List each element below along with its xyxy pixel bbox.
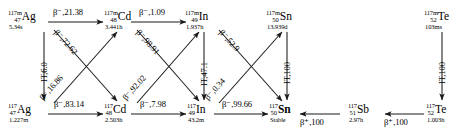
nuclide-ag117: 117 47 Ag 1.227m	[8, 99, 31, 124]
nuclide-label: 117m 49 In	[185, 10, 208, 24]
half-life: 43.2m	[187, 116, 206, 124]
nuclide-label: 117 52 Te	[426, 103, 446, 117]
half-life: 3.441h	[104, 23, 131, 31]
transition-label-in117-sn117: β⁻,99.66	[222, 100, 252, 109]
nuclide-numbers: 117 49	[187, 103, 196, 117]
nuclide-label: 117m 48 Cd	[104, 10, 131, 24]
transition-label-cd117-in117: β⁻,7.98	[140, 100, 166, 109]
nuclide-numbers: 117 47	[8, 103, 17, 117]
nuclide-sn117: 117 50 Sn Stable	[269, 99, 291, 124]
transition-label-sn117m-sn117: IT,100	[283, 62, 292, 84]
nuclide-numbers: 117m 48	[104, 10, 118, 24]
half-life: 13.939d	[266, 23, 292, 31]
transition-label-te117-sb117: β⁺,100	[384, 118, 408, 127]
half-life: 1.003h	[426, 116, 446, 124]
half-life: 103ms	[424, 23, 449, 31]
half-life: Stable	[269, 116, 291, 124]
half-life: 2.97h	[348, 116, 369, 124]
nuclide-numbers: 117 50	[269, 103, 278, 117]
atomic-number: 52	[424, 16, 438, 23]
nuclide-numbers: 117m 47	[8, 10, 22, 24]
nuclide-in117m: 117m 49 In 1.937h	[185, 6, 208, 31]
element-symbol: Ag	[22, 11, 36, 23]
decay-chain-diagram: 117m 47 Ag 5.34s 117 47 Ag 1.227m 117m 4…	[0, 0, 472, 134]
element-symbol: Sn	[280, 11, 292, 23]
atomic-number: 50	[266, 16, 280, 23]
nuclide-sb117: 117 51 Sb 2.97h	[348, 99, 369, 124]
half-life: 1.937h	[185, 23, 208, 31]
atomic-number: 48	[104, 109, 113, 116]
element-symbol: Cd	[113, 104, 126, 116]
atomic-number: 50	[269, 109, 278, 116]
nuclide-cd117: 117 48 Cd 2.503h	[104, 99, 126, 124]
nuclide-label: 117m 50 Sn	[266, 10, 292, 24]
transition-label-in117m-in117: IT,47.1	[200, 62, 209, 86]
nuclide-numbers: 117 52	[426, 103, 435, 117]
transition-label-te117m-te117: IT,100	[438, 62, 447, 84]
element-symbol: Sn	[278, 104, 291, 116]
element-symbol: Te	[435, 104, 446, 116]
element-symbol: Sb	[357, 104, 369, 116]
half-life: 2.503h	[104, 116, 126, 124]
nuclide-ag117m: 117m 47 Ag 5.34s	[8, 6, 36, 31]
nuclide-label: 117 48 Cd	[104, 103, 126, 117]
nuclide-te117: 117 52 Te 1.003h	[426, 99, 446, 124]
nuclide-label: 117 49 In	[187, 103, 206, 117]
nuclide-label: 117 51 Sb	[348, 103, 369, 117]
element-symbol: Ag	[17, 104, 31, 116]
transition-label-ag117m-ag117: IT,6.0	[40, 62, 49, 82]
transition-label-sb117-sn117: β⁺,100	[300, 118, 324, 127]
arrow-layer	[0, 0, 472, 134]
nuclide-te117m: 117m 52 Te 103ms	[424, 6, 449, 31]
nuclide-label: 117 47 Ag	[8, 103, 31, 117]
element-symbol: In	[199, 11, 209, 23]
nuclide-numbers: 117 51	[348, 103, 357, 117]
half-life: 5.34s	[8, 23, 36, 31]
nuclide-numbers: 117m 49	[185, 10, 199, 24]
element-symbol: Te	[438, 11, 449, 23]
nuclide-cd117m: 117m 48 Cd 3.441h	[104, 6, 131, 31]
atomic-number: 49	[187, 109, 196, 116]
element-symbol: Cd	[118, 11, 131, 23]
nuclide-numbers: 117m 52	[424, 10, 438, 24]
element-symbol: In	[196, 104, 206, 116]
atomic-number: 51	[348, 109, 357, 116]
transition-label-cd117m-in117m: β⁻,1.09	[139, 8, 165, 17]
nuclide-sn117m: 117m 50 Sn 13.939d	[266, 6, 292, 31]
nuclide-label: 117m 52 Te	[424, 10, 449, 24]
atomic-number: 47	[8, 16, 22, 23]
half-life: 1.227m	[8, 116, 31, 124]
transition-label-ag117m-cd117m: β⁻,21.38	[53, 8, 83, 17]
nuclide-in117: 117 49 In 43.2m	[187, 99, 206, 124]
atomic-number: 49	[185, 16, 199, 23]
atomic-number: 47	[8, 109, 17, 116]
nuclide-label: 117 50 Sn	[269, 103, 291, 117]
atomic-number: 48	[104, 16, 118, 23]
nuclide-numbers: 117m 50	[266, 10, 280, 24]
atomic-number: 52	[426, 109, 435, 116]
nuclide-numbers: 117 48	[104, 103, 113, 117]
transition-label-ag117-cd117: β⁻,83.14	[54, 100, 84, 109]
nuclide-label: 117m 47 Ag	[8, 10, 36, 24]
